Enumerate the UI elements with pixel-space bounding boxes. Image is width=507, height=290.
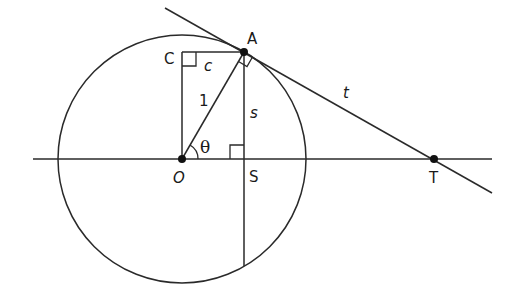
unit-circle-diagram: A C c 1 s θ O S t T <box>0 0 507 290</box>
label-radius: 1 <box>199 92 209 110</box>
tangent-line <box>165 8 492 193</box>
label-theta: θ <box>200 137 210 157</box>
label-s: S <box>249 168 259 186</box>
label-c: C <box>164 50 174 68</box>
label-t: T <box>428 169 439 187</box>
point-o <box>178 155 186 163</box>
label-cos: c <box>204 57 213 75</box>
right-angle-c <box>182 52 196 66</box>
label-a: A <box>247 30 258 48</box>
angle-arc-theta <box>190 145 198 159</box>
point-a <box>240 48 248 56</box>
label-sin: s <box>250 104 258 122</box>
point-t <box>430 155 438 163</box>
segment-oa-radius <box>182 52 244 159</box>
label-tan: t <box>343 84 350 102</box>
label-o: O <box>173 169 185 187</box>
right-angle-s <box>230 145 244 159</box>
